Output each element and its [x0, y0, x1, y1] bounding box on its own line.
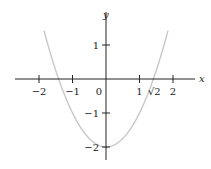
y-tick-label: −1: [84, 108, 99, 119]
x-tick-label: 2: [170, 86, 176, 97]
x-tick-label: −2: [32, 86, 47, 97]
x-tick-label: 1: [136, 86, 142, 97]
x-axis-label: x: [199, 73, 205, 84]
sqrt2-label: √2: [148, 86, 161, 97]
x-tick-label: −1: [65, 86, 80, 97]
y-axis-label: y: [102, 9, 109, 20]
y-tick-label: −2: [84, 142, 99, 153]
origin-label: 0: [96, 86, 102, 97]
plot-canvas: xy−2−1120√21−1−2: [0, 0, 211, 169]
function-plot: xy−2−1120√21−1−2: [0, 0, 211, 169]
y-tick-label: 1: [93, 40, 99, 51]
